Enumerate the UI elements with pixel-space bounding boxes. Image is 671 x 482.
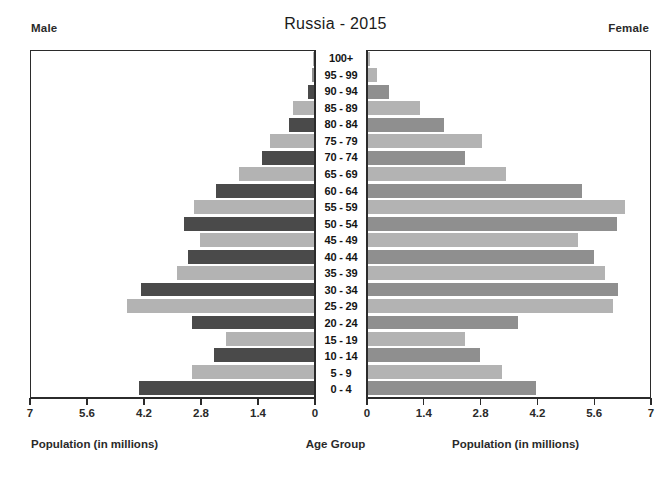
bar-female[interactable] xyxy=(368,217,617,231)
female-x-axis: 01.42.84.25.67 xyxy=(367,398,651,420)
bar-male[interactable] xyxy=(226,332,314,346)
bar-female[interactable] xyxy=(368,85,389,99)
bar-row xyxy=(31,183,314,199)
bar-female[interactable] xyxy=(368,151,465,165)
population-pyramid-chart: Male Russia - 2015 Female 100+95 - 9990 … xyxy=(0,0,671,482)
age-group-label: 20 - 24 xyxy=(316,315,366,332)
age-group-label: 90 - 94 xyxy=(316,83,366,100)
bar-row xyxy=(368,150,650,166)
bar-female[interactable] xyxy=(368,68,377,82)
bar-female[interactable] xyxy=(368,200,625,214)
female-bar-rows xyxy=(368,51,650,397)
bar-male[interactable] xyxy=(127,299,314,313)
bar-row xyxy=(368,249,650,265)
bar-male[interactable] xyxy=(262,151,314,165)
bar-female[interactable] xyxy=(368,365,502,379)
bar-female[interactable] xyxy=(368,266,605,280)
axis-tick xyxy=(143,398,144,405)
female-axis-line xyxy=(367,398,651,399)
bar-female[interactable] xyxy=(368,118,444,132)
bar-male[interactable] xyxy=(312,68,314,82)
chart-title: Russia - 2015 xyxy=(0,15,671,33)
bar-female[interactable] xyxy=(368,299,613,313)
age-group-label: 45 - 49 xyxy=(316,232,366,249)
bar-row xyxy=(31,331,314,347)
bar-female[interactable] xyxy=(368,167,506,181)
age-group-label: 35 - 39 xyxy=(316,265,366,282)
axis-tick xyxy=(257,398,258,405)
bar-female[interactable] xyxy=(368,52,370,66)
bar-row xyxy=(368,100,650,116)
bar-row xyxy=(31,249,314,265)
axis-tick-label: 1.4 xyxy=(250,407,266,419)
age-group-label: 30 - 34 xyxy=(316,282,366,299)
bar-row xyxy=(31,282,314,298)
axis-tick-label: 2.8 xyxy=(473,407,489,419)
bar-row xyxy=(31,150,314,166)
bar-row xyxy=(31,315,314,331)
bar-row xyxy=(31,380,314,396)
axis-tick-label: 7 xyxy=(648,407,654,419)
age-group-label: 75 - 79 xyxy=(316,133,366,150)
bar-male[interactable] xyxy=(192,365,314,379)
bar-row xyxy=(368,166,650,182)
axis-tick xyxy=(366,398,367,405)
bar-female[interactable] xyxy=(368,250,594,264)
right-axis-caption: Population (in millions) xyxy=(452,438,579,450)
axis-tick-label: 5.6 xyxy=(79,407,95,419)
bar-male[interactable] xyxy=(289,118,314,132)
male-axis-line xyxy=(30,398,315,399)
bar-female[interactable] xyxy=(368,316,518,330)
bar-female[interactable] xyxy=(368,348,480,362)
axis-tick-label: 2.8 xyxy=(193,407,209,419)
bar-row xyxy=(31,100,314,116)
bar-male[interactable] xyxy=(194,200,314,214)
bar-male[interactable] xyxy=(293,101,314,115)
age-group-label: 80 - 84 xyxy=(316,116,366,133)
female-series-label: Female xyxy=(608,22,649,34)
axis-tick-label: 0 xyxy=(364,407,370,419)
age-group-label: 15 - 19 xyxy=(316,332,366,349)
axis-tick xyxy=(200,398,201,405)
bar-male[interactable] xyxy=(270,134,314,148)
bar-female[interactable] xyxy=(368,332,465,346)
bar-male[interactable] xyxy=(200,233,314,247)
bar-female[interactable] xyxy=(368,233,578,247)
bar-male[interactable] xyxy=(192,316,314,330)
bar-row xyxy=(31,84,314,100)
bar-male[interactable] xyxy=(188,250,314,264)
bar-male[interactable] xyxy=(141,283,314,297)
bar-row xyxy=(31,232,314,248)
bar-row xyxy=(368,331,650,347)
bar-male[interactable] xyxy=(184,217,314,231)
bar-male[interactable] xyxy=(214,348,314,362)
axis-tick xyxy=(29,398,30,405)
axis-tick xyxy=(314,398,315,405)
bar-female[interactable] xyxy=(368,381,536,395)
bar-male[interactable] xyxy=(313,52,314,66)
bar-male[interactable] xyxy=(177,266,314,280)
age-group-label: 100+ xyxy=(316,50,366,67)
bar-female[interactable] xyxy=(368,134,482,148)
bar-male[interactable] xyxy=(216,184,314,198)
bar-row xyxy=(368,199,650,215)
bar-female[interactable] xyxy=(368,184,582,198)
bar-female[interactable] xyxy=(368,101,420,115)
bar-male[interactable] xyxy=(139,381,314,395)
axis-tick xyxy=(537,398,538,405)
age-group-label: 95 - 99 xyxy=(316,67,366,84)
age-group-label: 10 - 14 xyxy=(316,348,366,365)
bar-male[interactable] xyxy=(239,167,314,181)
bar-row xyxy=(31,364,314,380)
axis-tick-label: 4.2 xyxy=(529,407,545,419)
male-x-axis: 75.64.22.81.40 xyxy=(30,398,315,420)
age-group-label: 65 - 69 xyxy=(316,166,366,183)
bar-male[interactable] xyxy=(308,85,314,99)
axis-tick xyxy=(594,398,595,405)
age-group-label: 60 - 64 xyxy=(316,183,366,200)
female-plot-panel xyxy=(367,50,651,398)
axis-tick-label: 1.4 xyxy=(416,407,432,419)
bar-female[interactable] xyxy=(368,283,618,297)
bar-row xyxy=(368,380,650,396)
bar-row xyxy=(368,265,650,281)
